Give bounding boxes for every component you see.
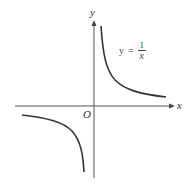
curve-negative-branch	[22, 115, 84, 172]
fraction-numerator: 1	[139, 40, 144, 50]
x-axis-label: x	[177, 100, 182, 111]
y-axis-arrow-icon	[92, 20, 97, 26]
curve-positive-branch	[101, 26, 166, 97]
origin-label: O	[83, 109, 91, 120]
equation-equals: =	[128, 45, 134, 56]
y-axis-label: y	[90, 7, 95, 18]
x-axis-arrow-icon	[169, 104, 175, 109]
reciprocal-graph	[0, 0, 193, 186]
fraction-denominator: x	[139, 51, 143, 61]
equation-lhs: y	[119, 45, 124, 56]
equation-fraction: 1 x	[138, 40, 146, 61]
equation-label: y = 1 x	[119, 40, 146, 61]
